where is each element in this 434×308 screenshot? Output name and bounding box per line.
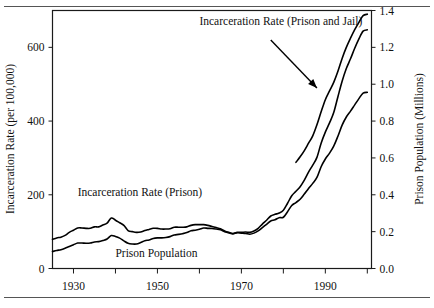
y-tick-label: 400 — [27, 115, 45, 127]
series-line-prison-population — [53, 30, 368, 252]
x-axis-tick-labels: 1930195019701990 — [62, 280, 337, 292]
y2-tick-label: 1.4 — [380, 5, 395, 17]
series-line-incarceration-rate-prison-and-jail — [296, 14, 367, 162]
chart-plot: 0200400600 0.00.20.40.60.81.01.21.4 1930… — [0, 0, 434, 308]
annot-prison: Incarceration Rate (Prison) — [78, 186, 203, 199]
y2-tick-label: 0.4 — [380, 189, 395, 201]
y-tick-label: 0 — [39, 263, 45, 275]
annot-prison-population: Prison Population — [115, 247, 197, 260]
x-tick-label: 1950 — [146, 280, 169, 292]
y2-tick-label: 0.8 — [380, 115, 395, 127]
annot-prison-and-jail-arrow-shaft — [271, 40, 317, 88]
data-series-group — [53, 14, 368, 251]
plot-frame — [53, 11, 372, 269]
left-axis-tick-labels: 0200400600 — [27, 41, 45, 274]
y-tick-label: 200 — [27, 189, 45, 201]
annot-prison-and-jail: Incarceration Rate (Prison and Jail) — [199, 15, 362, 28]
right-axis-tick-labels: 0.00.20.40.60.81.01.21.4 — [380, 5, 395, 275]
y2-tick-label: 0.0 — [380, 263, 395, 275]
y2-axis-title: Prison Population (Millions) — [413, 73, 426, 205]
y-tick-label: 600 — [27, 41, 45, 53]
y2-tick-label: 1.2 — [380, 41, 395, 53]
x-tick-label: 1930 — [62, 280, 85, 292]
x-axis-ticks — [73, 269, 367, 274]
y2-tick-label: 0.6 — [380, 152, 395, 164]
x-tick-label: 1970 — [230, 280, 253, 292]
y-axis-title: Incarceration Rate (per 100,000) — [4, 64, 17, 214]
y2-tick-label: 1.0 — [380, 78, 395, 90]
figure-container: 0200400600 0.00.20.40.60.81.01.21.4 1930… — [0, 0, 434, 308]
y2-tick-label: 0.2 — [380, 226, 395, 238]
x-tick-label: 1990 — [314, 280, 337, 292]
